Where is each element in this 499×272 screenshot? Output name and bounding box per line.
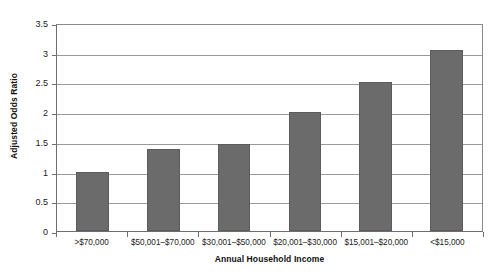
y-axis-tick-label: 0 [0, 227, 48, 237]
bar[interactable] [289, 112, 322, 231]
x-axis-tick [198, 232, 199, 237]
x-axis-category-label: $20,001–$30,000 [270, 238, 341, 247]
x-axis-tick [270, 232, 271, 237]
y-axis-tick-label: 1.5 [0, 138, 48, 148]
bar-slot [199, 25, 270, 231]
bar[interactable] [359, 82, 392, 231]
bar[interactable] [218, 144, 251, 231]
bar-slot [269, 25, 340, 231]
bar[interactable] [147, 149, 180, 231]
y-axis-tick-label: 2 [0, 108, 48, 118]
x-axis-tick [412, 232, 413, 237]
bar-slot [128, 25, 199, 231]
x-axis-tick [127, 232, 128, 237]
plot-area [56, 24, 483, 232]
x-axis-category-label: $15,001–$20,000 [341, 238, 412, 247]
bar[interactable] [430, 50, 463, 231]
y-axis-tick-label: 3 [0, 49, 48, 59]
x-axis-category-label: $50,001–$70,000 [127, 238, 198, 247]
y-axis-tick-label: 1 [0, 168, 48, 178]
bar[interactable] [76, 172, 109, 231]
bar-slot [411, 25, 482, 231]
bars-group [57, 25, 482, 231]
y-axis-tick-label: 2.5 [0, 78, 48, 88]
x-axis-category-label: >$70,000 [56, 238, 127, 247]
x-axis-tick [341, 232, 342, 237]
bar-chart: Adjusted Odds Ratio 00.511.522.533.5 >$7… [0, 0, 499, 272]
y-axis-tick-label: 0.5 [0, 197, 48, 207]
x-axis-tick [483, 232, 484, 237]
x-axis-tick [56, 232, 57, 237]
y-axis-tick-label: 3.5 [0, 19, 48, 29]
x-axis-category-labels: >$70,000$50,001–$70,000$30,001–$50,000$2… [56, 238, 483, 247]
x-axis-category-label: <$15,000 [412, 238, 483, 247]
bar-slot [340, 25, 411, 231]
x-axis-category-label: $30,001–$50,000 [198, 238, 269, 247]
x-axis-title: Annual Household Income [56, 254, 483, 264]
bar-slot [57, 25, 128, 231]
